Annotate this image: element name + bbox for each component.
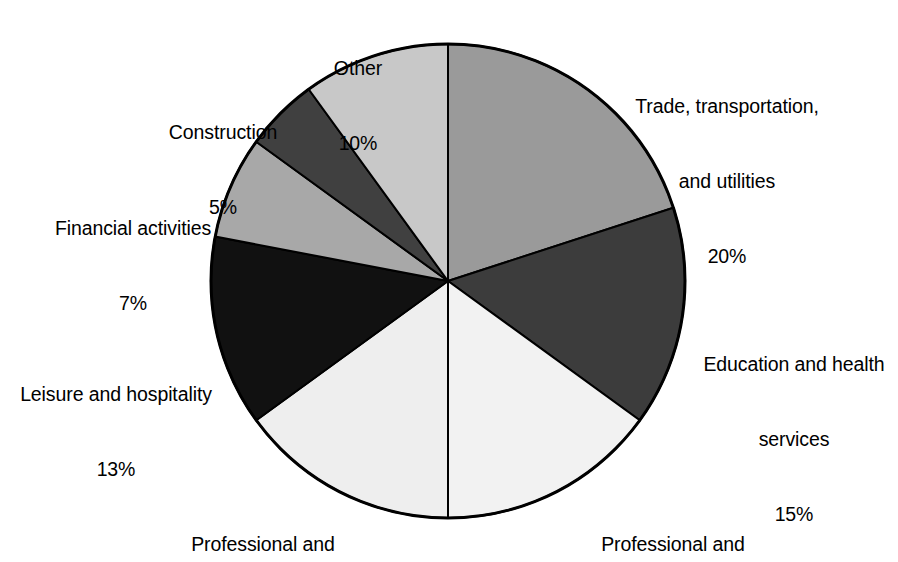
slice-label-professional-business-services-left-line1: Professional and bbox=[138, 532, 388, 557]
slice-label-professional-business-services-left: Professional and business services 15% bbox=[138, 482, 388, 562]
slice-label-financial-activities-value: 7% bbox=[18, 291, 248, 316]
slice-label-construction-name: Construction bbox=[128, 120, 318, 145]
slice-label-trade-transportation-utilities-value: 20% bbox=[578, 244, 876, 269]
slice-label-leisure-and-hospitality-value: 13% bbox=[0, 457, 232, 482]
slice-label-trade-transportation-utilities: Trade, transportation, and utilities 20% bbox=[578, 44, 876, 319]
pie-chart: Other 10% Construction 5% Financial acti… bbox=[0, 0, 898, 562]
slice-label-education-and-health-services: Education and health services 15% bbox=[690, 302, 898, 562]
slice-label-education-and-health-services-value: 15% bbox=[690, 502, 898, 527]
slice-label-trade-transportation-utilities-line1: Trade, transportation, bbox=[578, 94, 876, 119]
slice-label-trade-transportation-utilities-line2: and utilities bbox=[578, 169, 876, 194]
slice-label-education-and-health-services-line1: Education and health bbox=[690, 352, 898, 377]
slice-label-financial-activities-name: Financial activities bbox=[18, 216, 248, 241]
slice-label-leisure-and-hospitality-name: Leisure and hospitality bbox=[0, 382, 232, 407]
slice-label-education-and-health-services-line2: services bbox=[690, 427, 898, 452]
